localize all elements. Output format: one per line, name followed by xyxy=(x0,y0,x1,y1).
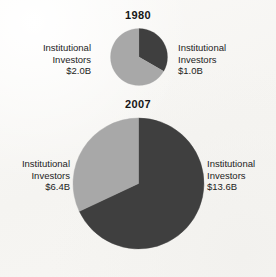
chart-block-1980: 1980 Institutional Investors $2.0B Insti… xyxy=(0,0,276,96)
pie-1980-left-label-line1: Institutional xyxy=(43,42,91,54)
pie-1980-left-label: Institutional Investors $2.0B xyxy=(43,42,91,77)
pie-2007-right-label-line1: Institutional xyxy=(207,158,255,170)
pie-2007-left-label-line1: Institutional xyxy=(22,158,70,170)
pie-2007-svg xyxy=(72,117,205,250)
pie-1980-right-label-line1: Institutional xyxy=(178,42,226,54)
pie-2007-right-label: Institutional Investors $13.6B xyxy=(207,158,255,193)
pie-1980-left-label-line2: Investors xyxy=(43,54,91,66)
pie-chart-2007 xyxy=(72,117,205,250)
pie-2007-left-label-line2: Investors xyxy=(22,170,70,182)
pie-1980-right-label-line2: Investors xyxy=(178,54,226,66)
pie-1980-right-label: Institutional Investors $1.0B xyxy=(178,42,226,77)
chart-block-2007: 2007 Institutional Investors $6.4B Insti… xyxy=(0,96,276,277)
pie-chart-1980 xyxy=(110,28,168,86)
pie-1980-left-label-value: $2.0B xyxy=(43,65,91,77)
pie-2007-left-label-value: $6.4B xyxy=(22,181,70,193)
chart-title-1980: 1980 xyxy=(0,9,276,21)
pie-2007-right-label-line2: Investors xyxy=(207,170,255,182)
pie-chart-figure: 1980 Institutional Investors $2.0B Insti… xyxy=(0,0,276,277)
pie-1980-right-label-value: $1.0B xyxy=(178,65,226,77)
chart-title-2007: 2007 xyxy=(0,98,276,110)
pie-2007-left-label: Institutional Investors $6.4B xyxy=(22,158,70,193)
pie-2007-right-label-value: $13.6B xyxy=(207,181,255,193)
pie-1980-svg xyxy=(110,28,168,86)
